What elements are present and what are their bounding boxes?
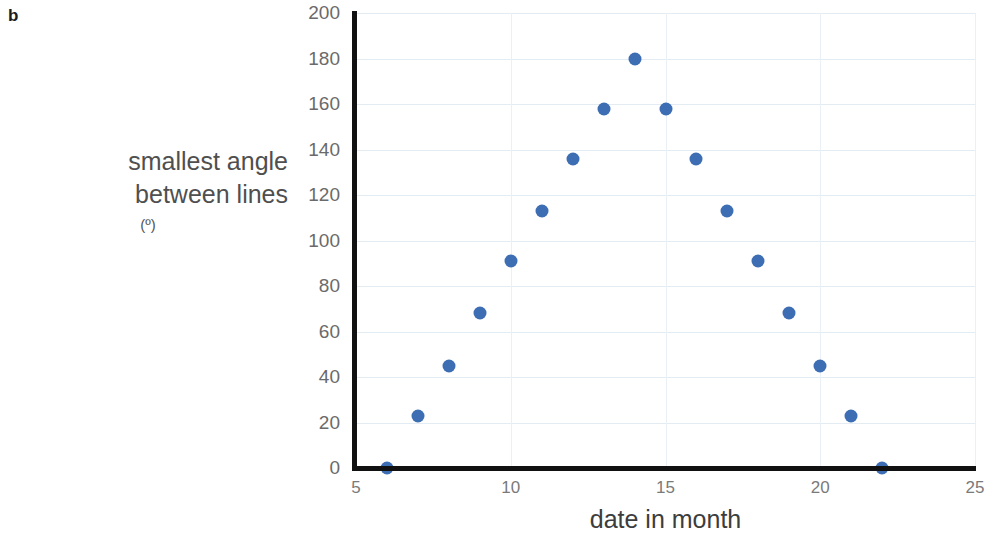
y-axis-line [352, 11, 357, 471]
y-tick-label: 0 [286, 457, 340, 479]
data-point [473, 307, 486, 320]
data-point [783, 307, 796, 320]
data-point [597, 102, 610, 115]
x-tick-label: 25 [966, 478, 985, 498]
data-point [690, 152, 703, 165]
y-axis-unit: (º) [30, 215, 288, 235]
data-point [659, 102, 672, 115]
x-tick-label: 20 [811, 478, 830, 498]
y-axis-title: smallest angle between lines (º) [30, 145, 288, 235]
y-tick-label: 120 [286, 184, 340, 206]
panel-label: b [8, 6, 18, 26]
figure-panel-b: b smallest angle between lines (º) 02040… [0, 0, 1002, 547]
x-tick-label: 10 [501, 478, 520, 498]
y-tick-label: 180 [286, 48, 340, 70]
y-axis-tick-labels: 020406080100120140160180200 [286, 0, 340, 547]
y-axis-title-line2: between lines [30, 178, 288, 211]
data-point [566, 152, 579, 165]
x-axis-title: date in month [356, 505, 975, 534]
x-axis-line [352, 466, 976, 471]
gridline-vertical [666, 13, 667, 468]
data-point [845, 409, 858, 422]
y-axis-title-line1: smallest angle [30, 145, 288, 178]
data-point [721, 204, 734, 217]
data-point [752, 254, 765, 267]
data-point [814, 359, 827, 372]
y-tick-label: 160 [286, 93, 340, 115]
data-point [504, 254, 517, 267]
y-tick-label: 60 [286, 321, 340, 343]
y-tick-label: 100 [286, 230, 340, 252]
x-tick-label: 5 [351, 478, 360, 498]
gridline-vertical [511, 13, 512, 468]
data-point [628, 52, 641, 65]
y-tick-label: 80 [286, 275, 340, 297]
x-tick-label: 15 [656, 478, 675, 498]
gridline-vertical [975, 13, 976, 468]
y-tick-label: 200 [286, 2, 340, 24]
y-tick-label: 20 [286, 412, 340, 434]
data-point [442, 359, 455, 372]
data-point [535, 204, 548, 217]
gridline-vertical [820, 13, 821, 468]
y-tick-label: 140 [286, 139, 340, 161]
data-point [411, 409, 424, 422]
plot-area [356, 13, 975, 468]
y-tick-label: 40 [286, 366, 340, 388]
